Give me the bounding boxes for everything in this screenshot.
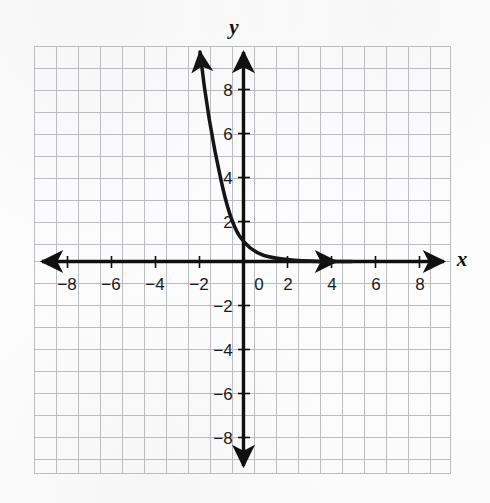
y-axis-label: y xyxy=(226,15,239,39)
x-tick-label: 6 xyxy=(371,275,380,294)
x-tick-label: 8 xyxy=(415,275,424,294)
x-tick-label: −8 xyxy=(57,275,76,294)
y-tick-label: 6 xyxy=(223,125,232,144)
x-tick-label: 4 xyxy=(327,275,336,294)
origin-label: 0 xyxy=(254,275,263,294)
y-tick-label: −2 xyxy=(213,297,232,316)
graph-page: y x −8 −6 −4 −2 0 2 4 6 8 8 6 4 2 −2 −4 … xyxy=(0,0,490,503)
x-tick-labels: −8 −6 −4 −2 0 2 4 6 8 xyxy=(57,275,424,294)
y-tick-label: 8 xyxy=(223,81,232,100)
y-tick-label: 2 xyxy=(223,213,232,232)
x-tick-label: −6 xyxy=(101,275,120,294)
y-tick-labels: 8 6 4 2 −2 −4 −6 −8 xyxy=(213,81,232,448)
x-axis-label: x xyxy=(456,247,468,271)
y-tick-label: −4 xyxy=(213,341,232,360)
x-tick-label: 2 xyxy=(283,275,292,294)
x-tick-label: −4 xyxy=(145,275,164,294)
y-tick-label: −6 xyxy=(213,385,232,404)
x-tick-label: −2 xyxy=(189,275,208,294)
axes xyxy=(42,52,444,466)
y-tick-label: −8 xyxy=(213,429,232,448)
coordinate-graph: y x −8 −6 −4 −2 0 2 4 6 8 8 6 4 2 −2 −4 … xyxy=(0,0,490,503)
y-tick-label: 4 xyxy=(223,169,232,188)
